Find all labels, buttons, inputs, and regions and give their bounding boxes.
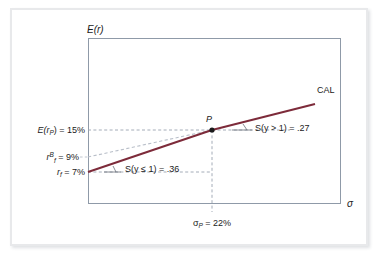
ytick-erp-tail: ) = 15% <box>54 125 85 135</box>
xtick-sigmap-tail: = 22% <box>203 218 231 228</box>
ytick-label-erp: E(rP) = 15% <box>37 125 85 136</box>
annotation-slope-lending: S(y ≤ 1) = .36 <box>125 164 179 174</box>
annotation-slope-borrowing: S(y > 1) = .27 <box>255 123 310 133</box>
x-axis-title: σ <box>347 198 354 209</box>
point-p-label: P <box>206 114 212 124</box>
ytick-rfb-tail: = 9% <box>56 152 79 162</box>
ytick-label-rf-borrow: rBf = 9% <box>47 151 79 165</box>
ytick-rf-tail: = 7% <box>62 167 85 177</box>
ytick-label-rf: rf = 7% <box>57 167 85 178</box>
cal-label: CAL <box>317 85 335 95</box>
cal-diagram: E(r) σ P CAL E(rP) = 15% rBf = 9% rf = 7… <box>0 0 382 259</box>
y-axis-title: E(r) <box>87 24 104 35</box>
xtick-label-sigmap: σP = 22% <box>193 218 231 229</box>
point-p-marker <box>209 127 214 132</box>
plot-frame <box>89 39 341 204</box>
